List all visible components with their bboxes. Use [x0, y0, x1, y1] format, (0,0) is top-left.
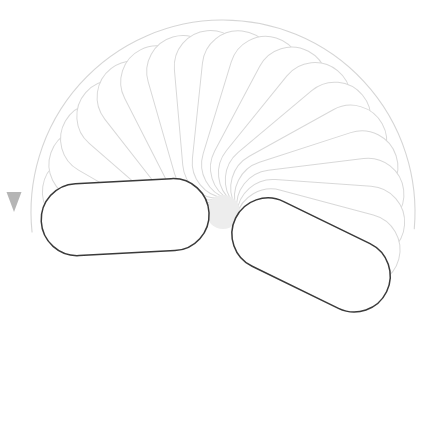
rotation-direction-arrow [7, 192, 22, 212]
capsule-shape[interactable] [39, 177, 211, 258]
rotation-frame[interactable] [39, 177, 211, 258]
onion-skin-svg [0, 0, 426, 430]
rotation-onion-skin-canvas [0, 0, 426, 430]
